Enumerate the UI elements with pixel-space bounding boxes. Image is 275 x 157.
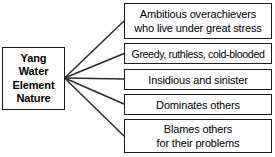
branch-node-label: Greedy, ruthless, cold-blooded — [125, 47, 271, 61]
branch-node-blames-others[interactable]: Blames others for their problems — [124, 119, 272, 153]
branch-node-label: Ambitious overachievers who live under g… — [125, 7, 271, 35]
branch-node-label-line-1: Insidious and sinister — [126, 73, 270, 87]
root-node-label-line-1: Yang — [4, 52, 63, 65]
root-node-label-line-4: Nature — [4, 92, 63, 105]
diagram-canvas: Yang Water Element Nature Ambitious over… — [0, 0, 275, 157]
branch-node-ambitious-overachievers[interactable]: Ambitious overachievers who live under g… — [124, 3, 272, 39]
branch-node-insidious-and-sinister[interactable]: Insidious and sinister — [124, 69, 272, 90]
root-node-yang-water-element-nature[interactable]: Yang Water Element Nature — [2, 47, 65, 110]
branch-node-label: Blames others for their problems — [125, 122, 271, 150]
connector-line-4 — [65, 78, 125, 104]
branch-node-greedy-ruthless-cold-blooded[interactable]: Greedy, ruthless, cold-blooded — [124, 43, 272, 64]
branch-node-label-line-2: who live under great stress — [126, 21, 270, 35]
branch-node-dominates-others[interactable]: Dominates others — [124, 94, 272, 115]
branch-node-label: Insidious and sinister — [125, 73, 271, 87]
branch-node-label-line-1: Ambitious overachievers — [126, 7, 270, 21]
root-node-label-line-3: Element — [4, 79, 63, 92]
branch-node-label-line-1: Blames others — [126, 122, 270, 136]
connector-line-2 — [65, 54, 125, 79]
connector-line-1 — [65, 21, 125, 78]
branch-node-label-line-2: for their problems — [126, 136, 270, 150]
root-node-label: Yang Water Element Nature — [3, 52, 64, 106]
connector-line-5 — [65, 78, 125, 136]
connector-line-3 — [65, 78, 125, 79]
branch-node-label: Dominates others — [125, 98, 271, 112]
branch-node-label-line-1: Greedy, ruthless, cold-blooded — [126, 47, 270, 61]
root-node-label-line-2: Water — [4, 65, 63, 78]
branch-node-label-line-1: Dominates others — [126, 98, 270, 112]
